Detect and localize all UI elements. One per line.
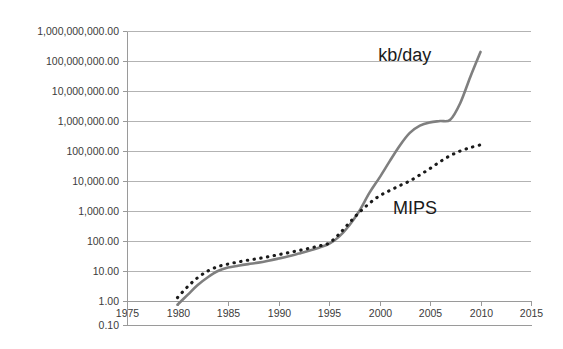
x-axis-tick-label: 2015 xyxy=(520,307,544,319)
chart-container: 1,000,000,000.00100,000,000.0010,000,000… xyxy=(0,0,563,349)
y-axis-tick-label: 100.00 xyxy=(87,235,119,247)
y-axis-tick-label: 1,000.00 xyxy=(78,205,119,217)
x-axis-tick-label: 1985 xyxy=(217,307,241,319)
y-axis-tick-labels-group: 1,000,000,000.00100,000,000.0010,000,000… xyxy=(37,25,119,331)
x-axis-tick-label: 1995 xyxy=(318,307,342,319)
series-label-kb-day: kb/day xyxy=(378,45,431,65)
x-axis-tick-label: 1990 xyxy=(268,307,292,319)
x-axis-tick-label: 2000 xyxy=(369,307,393,319)
line-chart: 1,000,000,000.00100,000,000.0010,000,000… xyxy=(0,0,563,349)
y-axis-tick-label: 1,000,000.00 xyxy=(58,115,119,127)
y-axis-tick-label: 1,000,000,000.00 xyxy=(37,25,119,37)
x-axis-tick-labels-group: 197519801985199019952000200520102015 xyxy=(116,307,544,319)
x-axis-tick-label: 1980 xyxy=(167,307,191,319)
y-axis-tick-label: 100,000,000.00 xyxy=(46,55,119,67)
x-axis-ticks-group xyxy=(128,302,532,306)
y-axis-tick-label: 10,000.00 xyxy=(72,175,119,187)
y-axis-tick-label: 10,000,000.00 xyxy=(52,85,119,97)
series-line-mips xyxy=(178,145,481,298)
y-axis-tick-label: 100,000.00 xyxy=(66,145,119,157)
y-axis-tick-label: 10.00 xyxy=(93,265,119,277)
y-axis-ticks-group xyxy=(123,32,127,326)
y-axis-tick-label: 1.00 xyxy=(99,295,120,307)
gridlines-group xyxy=(127,32,531,302)
x-axis-tick-label: 2005 xyxy=(419,307,443,319)
y-axis-tick-label: 0.10 xyxy=(99,319,120,331)
series-label-mips: MIPS xyxy=(393,198,437,218)
x-axis-tick-label: 2010 xyxy=(470,307,494,319)
series-line-kb-day xyxy=(178,52,481,305)
